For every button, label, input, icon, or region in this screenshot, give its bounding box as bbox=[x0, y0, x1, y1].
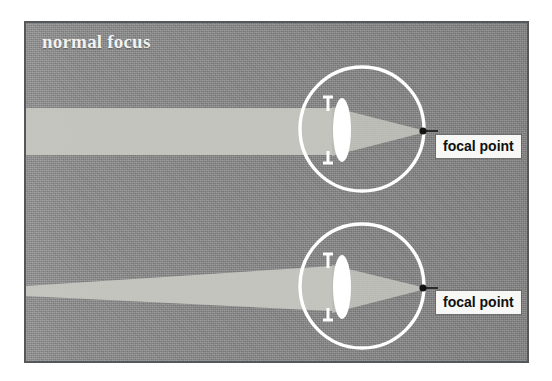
figure-page: normal focus bbox=[0, 0, 552, 381]
focal-point-label-lower: focal point bbox=[436, 291, 521, 314]
lower-iris-upper-stub bbox=[323, 254, 333, 268]
upper-lens bbox=[333, 98, 351, 162]
lower-eye-diagram bbox=[26, 224, 438, 348]
focal-point-label-upper: focal point bbox=[436, 135, 521, 158]
upper-parallel-beam bbox=[26, 108, 332, 155]
lower-incoming-cone bbox=[26, 266, 332, 311]
lower-lens bbox=[333, 255, 351, 319]
upper-eye-diagram bbox=[26, 67, 438, 191]
illustration-frame: normal focus bbox=[24, 21, 529, 363]
